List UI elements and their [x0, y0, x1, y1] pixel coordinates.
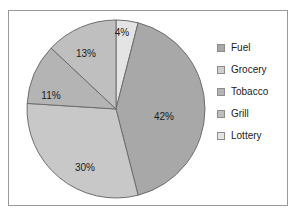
- legend-item-fuel[interactable]: Fuel: [217, 41, 289, 55]
- legend-swatch-icon: [217, 88, 225, 96]
- legend-swatch-icon: [217, 66, 225, 74]
- legend-item-label: Grocery: [231, 65, 267, 75]
- legend-item-label: Tobacco: [231, 87, 268, 97]
- legend-item-label: Fuel: [231, 43, 250, 53]
- legend-swatch-icon: [217, 110, 225, 118]
- chart-legend: FuelGroceryTobaccoGrillLottery: [217, 41, 289, 151]
- chart-frame: 4%42%30%11%13% FuelGroceryTobaccoGrillLo…: [8, 10, 288, 206]
- legend-swatch-icon: [217, 44, 225, 52]
- pie-slice-label-grocery: 30%: [75, 162, 95, 173]
- pie-slice-label-lottery: 4%: [115, 27, 130, 38]
- pie-slice-label-tobacco: 11%: [41, 90, 60, 101]
- legend-item-tobacco[interactable]: Tobacco: [217, 85, 289, 99]
- legend-swatch-icon: [217, 132, 225, 140]
- pie-slice-label-grill: 13%: [76, 48, 96, 59]
- pie-chart-svg: 4%42%30%11%13%: [9, 11, 209, 207]
- legend-item-grill[interactable]: Grill: [217, 107, 289, 121]
- legend-item-label: Lottery: [231, 131, 262, 141]
- pie-chart-area: 4%42%30%11%13%: [9, 11, 209, 207]
- legend-item-lottery[interactable]: Lottery: [217, 129, 289, 143]
- legend-item-grocery[interactable]: Grocery: [217, 63, 289, 77]
- legend-item-label: Grill: [231, 109, 249, 119]
- pie-slice-label-fuel: 42%: [154, 111, 174, 122]
